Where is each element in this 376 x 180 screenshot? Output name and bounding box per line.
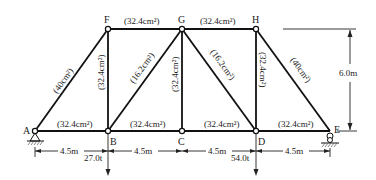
node-b (105, 128, 110, 133)
node-label-f: F (104, 14, 110, 25)
area-label-bg: (16.2cm²) (128, 51, 157, 86)
area-label-gh: (32.4cm²) (200, 16, 235, 26)
truss-members (35, 29, 330, 131)
node-f (105, 26, 110, 31)
node-label-c: C (178, 136, 185, 147)
area-label-cg: (32.4cm²) (170, 57, 180, 92)
load-label-b: 27.0t (84, 153, 103, 163)
span-label-2: 4.5m (134, 146, 152, 156)
node-label-g: G (178, 14, 185, 25)
roller-support-e (321, 133, 339, 147)
node-a (32, 128, 37, 133)
node-label-a: A (23, 125, 31, 136)
span-label-4: 4.5m (285, 146, 303, 156)
area-label-gd: (16.2cm²) (208, 47, 237, 82)
node-h (253, 26, 258, 31)
area-label-ab: (32.4cm²) (57, 119, 92, 129)
node-label-d: D (258, 136, 265, 147)
load-label-d: 54.0t (231, 153, 250, 163)
height-label: 6.0m (339, 68, 357, 78)
area-label-cd: (32.4cm²) (204, 119, 239, 129)
node-label-e: E (334, 124, 340, 135)
span-label-1: 4.5m (60, 146, 78, 156)
area-label-bf: (32.4cm²) (96, 55, 106, 90)
truss-diagram: A B C D E F G H (32.4cm²) (32.4cm²) (32.… (0, 0, 376, 180)
node-g (179, 26, 184, 31)
area-label-dh: (32.4cm²) (258, 52, 268, 87)
area-label-de: (32.4cm²) (278, 119, 313, 129)
area-label-fg: (32.4cm²) (124, 16, 159, 26)
node-label-b: B (110, 136, 117, 147)
node-c (179, 128, 184, 133)
member-gd (182, 29, 256, 131)
area-label-bc: (32.4cm²) (130, 119, 165, 129)
span-label-3: 4.5m (208, 146, 226, 156)
node-label-h: H (252, 14, 259, 25)
node-d (253, 128, 258, 133)
